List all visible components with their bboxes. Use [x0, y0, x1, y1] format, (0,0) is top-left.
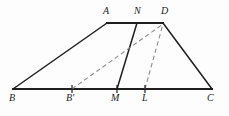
vertex-label-B-prime: B' [66, 93, 74, 103]
vertex-label-C: C [207, 93, 214, 103]
segment-DC-right-leg [163, 23, 212, 89]
segment-MN [117, 23, 137, 89]
segment-LD [145, 24, 163, 89]
geometry-figure: A N D B B' M L C [0, 0, 229, 116]
vertex-label-M: M [111, 93, 119, 103]
segment-BA-left-leg [13, 23, 107, 89]
vertex-label-L: L [142, 93, 148, 103]
vertex-label-B: B [9, 93, 15, 103]
segment-BprimeD [72, 24, 163, 89]
vertex-label-N: N [134, 6, 141, 16]
vertex-label-A: A [103, 6, 109, 16]
vertex-label-D: D [161, 6, 168, 16]
